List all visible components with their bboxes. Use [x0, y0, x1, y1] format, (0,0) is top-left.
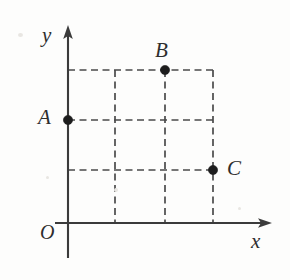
point-A-marker[interactable] [63, 115, 72, 124]
grid-vertical-lines [115, 70, 213, 224]
point-A-label: A [38, 107, 51, 128]
point-C-marker[interactable] [208, 165, 217, 174]
coordinate-figure: y x O A B C [0, 0, 290, 280]
grid-horizontal-lines [68, 70, 214, 170]
point-C-label: C [227, 158, 241, 179]
origin-label: O [40, 222, 54, 242]
point-B-label: B [155, 40, 168, 61]
point-B-marker[interactable] [160, 65, 169, 74]
y-axis-label: y [42, 25, 51, 46]
x-axis-label: x [251, 231, 260, 252]
